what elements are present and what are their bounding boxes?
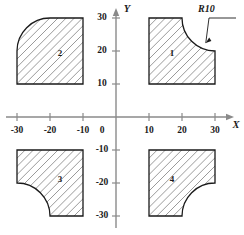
hatch-line xyxy=(0,14,13,88)
y-tick-label: 10 xyxy=(97,78,107,88)
y-tick-label: 20 xyxy=(97,45,107,55)
hatch-line xyxy=(243,14,244,88)
x-tick-label: 10 xyxy=(144,125,154,135)
hatch-line xyxy=(227,146,244,220)
technical-drawing-figure: XY-30-20-10102030302010-10-20-300 1234 R… xyxy=(0,0,244,235)
y-tick-label: -10 xyxy=(96,144,109,154)
coordinate-figure-svg: XY-30-20-10102030302010-10-20-300 1234 R… xyxy=(0,0,244,235)
x-tick-label: 30 xyxy=(210,125,220,135)
shape-outline-1 xyxy=(149,18,215,84)
hatch-line xyxy=(227,14,244,88)
x-axis-label: X xyxy=(231,119,240,130)
hatch-line xyxy=(0,146,5,220)
y-tick-label: -20 xyxy=(96,177,109,187)
shape-outline-2 xyxy=(17,18,83,84)
x-tick-label: -10 xyxy=(77,125,90,135)
y-tick-label: 30 xyxy=(97,12,107,22)
x-tick-label: -20 xyxy=(44,125,57,135)
y-axis-arrowhead xyxy=(113,8,119,16)
shape-outline-4 xyxy=(149,150,215,216)
shape-number-1: 1 xyxy=(170,48,175,58)
annotations-group: R10 xyxy=(197,3,236,43)
hatch-line xyxy=(218,146,244,220)
x-tick-label: 20 xyxy=(177,125,187,135)
shape-number-2: 2 xyxy=(58,48,63,58)
y-tick-label: -30 xyxy=(96,210,109,220)
shape-number-3: 3 xyxy=(58,174,63,184)
shape-outline-3 xyxy=(17,150,83,216)
origin-label: 0 xyxy=(100,125,105,135)
hatch-line xyxy=(0,146,13,220)
hatch-line xyxy=(235,14,244,88)
hatch-line xyxy=(243,146,244,220)
hatch-line xyxy=(218,14,244,88)
y-axis-label: Y xyxy=(124,3,132,14)
x-tick-label: -30 xyxy=(11,125,24,135)
hatch-line xyxy=(235,146,244,220)
hatch-line xyxy=(0,14,5,88)
shape-number-4: 4 xyxy=(170,174,175,184)
radius-leader-line xyxy=(206,18,236,43)
radius-label-r10: R10 xyxy=(197,3,215,14)
